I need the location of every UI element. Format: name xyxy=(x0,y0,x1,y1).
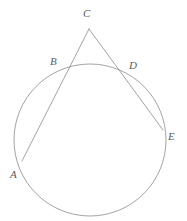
point-label-d: D xyxy=(129,60,137,71)
point-label-e: E xyxy=(168,131,175,142)
point-label-c: C xyxy=(83,8,90,19)
point-label-a: A xyxy=(10,169,17,180)
point-label-b: B xyxy=(50,56,57,67)
geometry-diagram: A B C D E xyxy=(0,0,187,221)
circle-shape xyxy=(14,64,166,216)
secant-line-c-e xyxy=(89,29,163,130)
secant-line-c-a xyxy=(22,29,89,161)
geometry-canvas xyxy=(0,0,187,221)
